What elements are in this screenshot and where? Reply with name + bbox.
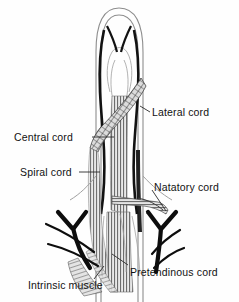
figure-page: Lateral cord Central cord Spiral cord Na… (0, 0, 239, 302)
leader-lateral-cord (140, 106, 150, 112)
label-pretendinous-cord: Pretendinous cord (130, 266, 218, 278)
label-spiral-cord: Spiral cord (20, 166, 72, 178)
finger-anatomy-diagram (0, 0, 239, 302)
label-lateral-cord: Lateral cord (152, 106, 209, 118)
label-intrinsic-muscle: Intrinsic muscle (28, 279, 103, 291)
pretendinous-cord-bundle (107, 212, 133, 292)
label-natatory-cord: Natatory cord (154, 181, 219, 193)
label-central-cord: Central cord (14, 131, 73, 143)
lateral-cord-band (136, 150, 142, 232)
fingertip-inner-contour (107, 48, 132, 101)
neurovascular-bundle-right (148, 212, 184, 272)
